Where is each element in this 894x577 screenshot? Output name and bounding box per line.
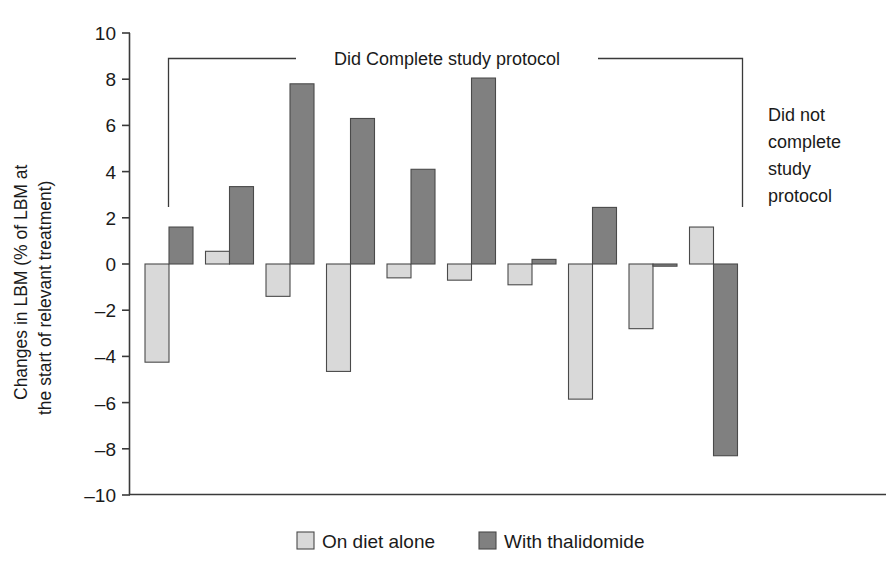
did-not-complete-line-3: study — [768, 159, 811, 179]
y-tick-label: 8 — [105, 69, 116, 90]
did-complete-bracket: Did Complete study protocol — [169, 49, 743, 207]
bar-thalidomide-P9 — [653, 264, 677, 266]
y-tick-label: 2 — [105, 208, 116, 229]
bar-group — [145, 78, 738, 456]
legend-swatch-diet-alone — [297, 532, 314, 549]
did-not-complete-label: Did not complete study protocol — [768, 105, 841, 206]
bar-thalidomide-P6 — [472, 78, 496, 264]
y-tick-label: 4 — [105, 162, 116, 183]
legend-label-thalidomide: With thalidomide — [504, 531, 644, 552]
y-tick-label: –8 — [95, 439, 116, 460]
bar-diet-alone-P2 — [206, 251, 230, 264]
bar-diet-alone-P10 — [690, 227, 714, 264]
chart-legend: On diet aloneWith thalidomide — [297, 531, 644, 552]
bar-diet-alone-P9 — [629, 264, 653, 329]
bar-thalidomide-P8 — [593, 207, 617, 264]
bar-diet-alone-P8 — [569, 264, 593, 399]
y-tick-label: 6 — [105, 115, 116, 136]
did-not-complete-line-2: complete — [768, 132, 841, 152]
bar-diet-alone-P6 — [448, 264, 472, 280]
y-axis-title-line1: Changes in LBM (% of LBM at — [11, 164, 31, 400]
y-axis-ticks: 1086420–2–4–6–8–10 — [84, 23, 130, 506]
bar-thalidomide-P7 — [532, 259, 556, 264]
bar-thalidomide-P10 — [714, 264, 738, 456]
bar-diet-alone-P3 — [266, 264, 290, 296]
y-tick-label: –2 — [95, 300, 116, 321]
bar-diet-alone-P5 — [387, 264, 411, 278]
y-tick-label: –10 — [84, 485, 116, 506]
y-tick-label: –4 — [95, 346, 117, 367]
legend-label-diet-alone: On diet alone — [322, 531, 435, 552]
lbm-change-bar-chart: Changes in LBM (% of LBM at the start of… — [0, 0, 894, 577]
bracket-left-arm — [169, 59, 297, 208]
bar-diet-alone-P7 — [508, 264, 532, 285]
y-axis-title-line2: the start of relevant treatment) — [35, 181, 55, 415]
bar-diet-alone-P4 — [327, 264, 351, 371]
bracket-right-arm — [598, 59, 743, 208]
legend-swatch-thalidomide — [479, 532, 496, 549]
y-tick-label: 0 — [105, 254, 116, 275]
bar-thalidomide-P1 — [169, 227, 193, 264]
chart-container: Changes in LBM (% of LBM at the start of… — [0, 0, 894, 577]
bar-thalidomide-P3 — [290, 84, 314, 264]
bar-thalidomide-P5 — [411, 169, 435, 264]
did-not-complete-line-1: Did not — [768, 105, 825, 125]
bar-thalidomide-P4 — [351, 118, 375, 264]
y-tick-label: –6 — [95, 393, 116, 414]
y-axis-title: Changes in LBM (% of LBM at the start of… — [11, 164, 55, 415]
did-complete-label: Did Complete study protocol — [334, 49, 560, 69]
bar-diet-alone-P1 — [145, 264, 169, 362]
did-not-complete-line-4: protocol — [768, 186, 832, 206]
bar-thalidomide-P2 — [230, 187, 254, 264]
y-tick-label: 10 — [95, 23, 116, 44]
